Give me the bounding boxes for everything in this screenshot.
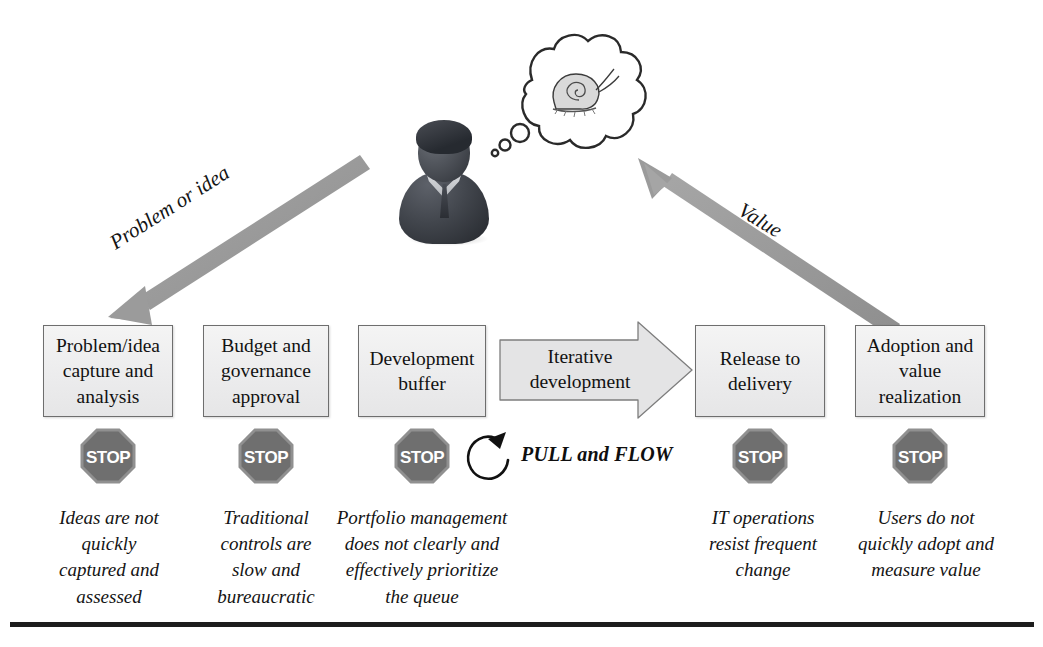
caption-problem-idea-capture: Ideas are notquicklycaptured andassessed [43, 505, 175, 610]
stop-sign-release-to-delivery[interactable]: STOP [732, 428, 788, 484]
stage-box-problem-idea-capture[interactable]: Problem/ideacapture andanalysis [43, 325, 173, 417]
svg-text:STOP: STOP [898, 448, 942, 467]
svg-text:STOP: STOP [86, 448, 130, 467]
circular-refresh-arrow-icon [462, 428, 516, 484]
problem-or-idea-arrow-shape [108, 155, 370, 325]
caption-release-to-delivery: IT operationsresist frequentchange [690, 505, 836, 584]
svg-text:STOP: STOP [244, 448, 288, 467]
value-arrow-shape [638, 158, 900, 337]
avatar-hair [416, 120, 472, 154]
diagram-canvas: Problem or idea Value Problem/ideacaptur… [0, 0, 1043, 647]
stop-sign-adoption-value-realization[interactable]: STOP [892, 428, 948, 484]
caption-adoption-value-realization: Users do notquickly adopt andmeasure val… [845, 505, 1007, 584]
caption-development-buffer: Portfolio managementdoes not clearly and… [315, 505, 529, 610]
snail-in-thought-bubble [470, 22, 660, 177]
stage-box-adoption-value-realization[interactable]: Adoption andvaluerealization [855, 325, 985, 417]
stage-chevron-iterative-development[interactable]: Iterativedevelopment [498, 320, 694, 420]
stage-chevron-label: Iterativedevelopment [506, 344, 654, 395]
bottom-divider-rule [10, 622, 1034, 627]
svg-text:STOP: STOP [400, 448, 444, 467]
stage-box-release-to-delivery[interactable]: Release todelivery [695, 325, 825, 417]
stop-sign-problem-idea-capture[interactable]: STOP [80, 428, 136, 484]
problem-or-idea-arrow-label: Problem or idea [105, 160, 234, 255]
svg-text:STOP: STOP [738, 448, 782, 467]
stop-sign-budget-governance[interactable]: STOP [238, 428, 294, 484]
stage-box-development-buffer[interactable]: Developmentbuffer [358, 325, 486, 417]
stop-sign-development-buffer[interactable]: STOP [394, 428, 450, 484]
pull-and-flow-label: PULL and FLOW [521, 443, 673, 466]
value-arrow-label: Value [734, 198, 787, 243]
stage-box-budget-governance[interactable]: Budget andgovernanceapproval [203, 325, 329, 417]
